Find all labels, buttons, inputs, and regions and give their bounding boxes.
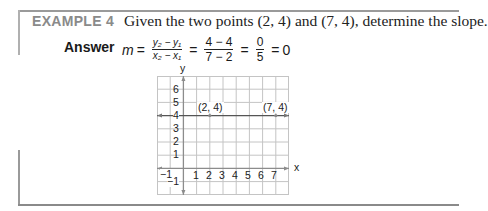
equals-sign: = — [137, 42, 145, 58]
point-7-4 — [274, 114, 277, 117]
example-label: EXAMPLE 4 — [32, 13, 114, 29]
y-axis-label: y — [180, 63, 185, 74]
substituted-denominator: 7 − 2 — [205, 50, 232, 63]
frame-bottom-border — [18, 204, 459, 206]
y-tick-2: 2 — [173, 136, 179, 147]
y-tick-3: 3 — [173, 123, 179, 134]
x-tick-3: 3 — [219, 170, 225, 181]
answer-label: Answer — [64, 39, 115, 55]
slope-equation: m = y₂ − y₁ x₂ − x₁ = 4 − 4 7 − 2 = 0 5 … — [122, 36, 290, 63]
x-tick-7: 7 — [271, 170, 277, 181]
substituted-fraction: 4 − 4 7 − 2 — [204, 36, 233, 63]
simplified-numerator: 0 — [256, 36, 265, 50]
equals-sign: = — [240, 42, 248, 58]
y-tick-5: 5 — [173, 97, 179, 108]
x-tick-5: 5 — [245, 170, 251, 181]
frame-left-border — [18, 10, 20, 55]
simplified-denominator: 5 — [257, 50, 264, 63]
slope-result: 0 — [283, 42, 291, 58]
y-tick-1: 1 — [173, 149, 179, 160]
y-tick-4: 4 — [173, 110, 179, 121]
slope-variable: m — [122, 42, 134, 58]
equals-sign: = — [271, 42, 279, 58]
coordinate-graph: 6 5 4 3 2 1 −1 −1 1 2 3 4 5 6 7 (2, 4) (… — [157, 76, 289, 195]
point-label-2-4: (2, 4) — [197, 102, 224, 113]
x-axis-label: x — [294, 162, 299, 173]
slope-formula-fraction: y₂ − y₁ x₂ − x₁ — [152, 38, 182, 61]
substituted-numerator: 4 − 4 — [204, 36, 233, 50]
equals-sign: = — [189, 42, 197, 58]
x-tick-6: 6 — [258, 170, 264, 181]
point-2-4 — [208, 114, 211, 117]
point-label-7-4: (7, 4) — [262, 102, 289, 113]
x-tick-neg1: −1 — [160, 169, 172, 180]
example-prompt: Given the two points (2, 4) and (7, 4), … — [124, 12, 488, 30]
x-tick-4: 4 — [232, 170, 238, 181]
y-tick-6: 6 — [173, 84, 179, 95]
formula-numerator: y₂ − y₁ — [152, 38, 182, 50]
simplified-fraction: 0 5 — [256, 36, 265, 63]
frame-left-border-lower — [18, 150, 20, 205]
x-tick-2: 2 — [206, 170, 212, 181]
formula-denominator: x₂ − x₁ — [153, 50, 181, 61]
x-tick-1: 1 — [193, 170, 199, 181]
